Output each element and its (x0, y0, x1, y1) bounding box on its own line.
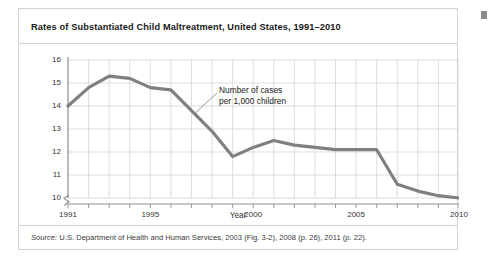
y-axis-tick-label: 10 (41, 193, 61, 202)
y-axis-tick-label: 12 (41, 147, 61, 156)
y-axis-tick-label: 15 (41, 78, 61, 87)
source-text: U.S. Department of Health and Human Serv… (57, 233, 367, 242)
annotation-line-1: Number of cases (219, 85, 286, 96)
chart-annotation: Number of cases per 1,000 children (219, 85, 286, 107)
annotation-line-2: per 1,000 children (219, 96, 286, 107)
y-axis-tick-label: 14 (41, 101, 61, 110)
grid-lines (68, 60, 459, 198)
x-axis-ticks (68, 204, 459, 208)
chart-plot-area: 16151413121110 19911995200020052010 Numb… (19, 9, 459, 251)
source-label: Source: (31, 233, 57, 242)
x-axis-title: Year (19, 211, 457, 220)
source-note: Source: U.S. Department of Health and Hu… (31, 233, 367, 242)
annotation-leader-line (194, 93, 218, 115)
y-axis-tick-label: 13 (41, 124, 61, 133)
y-axis-tick-label: 11 (41, 170, 61, 179)
figure-panel: Rates of Substantiated Child Maltreatmen… (18, 8, 458, 250)
y-axis-tick-label: 16 (41, 55, 61, 64)
source-divider (19, 225, 457, 226)
page-corner-mark (481, 11, 487, 19)
